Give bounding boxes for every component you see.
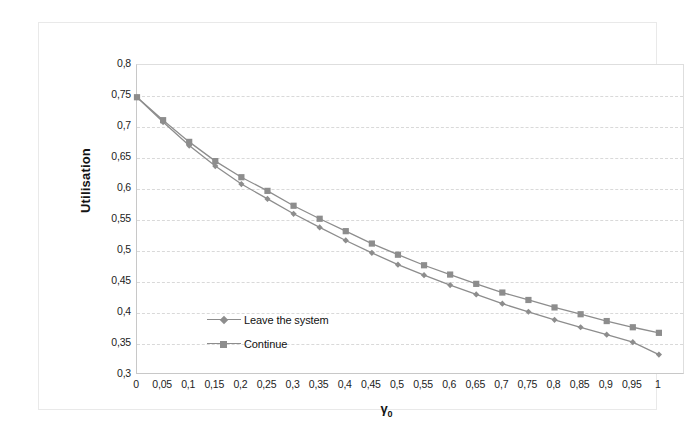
y-tick-label: 0,5 (117, 243, 131, 255)
data-point-marker (290, 203, 296, 209)
y-tick-label: 0,4 (117, 305, 131, 317)
data-point-marker (630, 324, 636, 330)
data-point-marker (421, 272, 427, 278)
chart-frame: Utilisation 0,80,750,70,650,60,550,50,45… (38, 22, 657, 410)
data-point-marker (421, 262, 427, 268)
y-tick-label: 0,35 (111, 336, 131, 348)
data-point-marker (525, 297, 531, 303)
data-point-marker (264, 196, 270, 202)
x-tick-label: 1 (655, 378, 661, 390)
x-tick-label: 0,75 (518, 378, 538, 390)
series-continue (134, 94, 662, 336)
data-point-marker (578, 311, 584, 317)
data-point-marker (551, 317, 557, 323)
legend-marker-diamond-icon (207, 314, 241, 326)
x-tick-label: 0,85 (570, 378, 590, 390)
y-tick-label: 0,3 (117, 367, 131, 379)
x-axis-title: γ0 (39, 401, 695, 419)
x-tick-label: 0,9 (599, 378, 613, 390)
data-point-marker (578, 324, 584, 330)
data-point-marker (473, 281, 479, 287)
series-line (137, 97, 659, 333)
x-tick-label: 0,45 (361, 378, 381, 390)
x-tick-label: 0,15 (204, 378, 224, 390)
x-axis-title-glyph: γ (380, 401, 387, 416)
legend-item-label: Leave the system (244, 314, 329, 326)
data-point-marker (499, 301, 505, 307)
x-tick-label: 0,1 (181, 378, 195, 390)
data-point-marker (525, 309, 531, 315)
chart-figure: Utilisation 0,80,750,70,650,60,550,50,45… (0, 0, 695, 439)
data-point-marker (317, 216, 323, 222)
data-point-marker (290, 211, 296, 217)
data-point-marker (264, 188, 270, 194)
data-point-marker (395, 252, 401, 258)
y-tick-label: 0,45 (111, 274, 131, 286)
data-point-marker (447, 271, 453, 277)
x-tick-label: 0,05 (152, 378, 172, 390)
data-point-marker (369, 250, 375, 256)
x-tick-label: 0,55 (413, 378, 433, 390)
x-axis-tick-labels: 00,050,10,150,20,250,30,350,40,450,50,55… (136, 378, 684, 398)
data-point-marker (343, 228, 349, 234)
data-point-marker (473, 291, 479, 297)
data-point-marker (238, 174, 244, 180)
data-point-marker (551, 304, 557, 310)
data-point-marker (604, 318, 610, 324)
x-tick-label: 0,4 (338, 378, 352, 390)
y-tick-label: 0,75 (111, 88, 131, 100)
legend-marker-square-icon (207, 338, 241, 350)
x-tick-label: 0,65 (465, 378, 485, 390)
legend-item-label: Continue (244, 338, 287, 350)
data-point-marker (343, 237, 349, 243)
x-axis-title-subscript: 0 (388, 409, 393, 419)
data-point-marker (447, 282, 453, 288)
y-tick-label: 0,65 (111, 150, 131, 162)
x-tick-label: 0 (133, 378, 139, 390)
x-tick-label: 0,2 (233, 378, 247, 390)
x-tick-label: 0,5 (390, 378, 404, 390)
y-tick-label: 0,8 (117, 57, 131, 69)
data-point-marker (656, 351, 662, 357)
y-tick-label: 0,6 (117, 181, 131, 193)
x-tick-label: 0,7 (494, 378, 508, 390)
y-tick-label: 0,55 (111, 212, 131, 224)
data-point-marker (630, 339, 636, 345)
data-point-marker (369, 240, 375, 246)
data-point-marker (317, 224, 323, 230)
data-point-marker (604, 332, 610, 338)
x-tick-label: 0,6 (442, 378, 456, 390)
legend-item: Leave the system (207, 308, 397, 332)
x-tick-label: 0,8 (547, 378, 561, 390)
legend-item: Continue (207, 332, 397, 356)
data-point-marker (395, 262, 401, 268)
x-tick-label: 0,35 (309, 378, 329, 390)
data-point-marker (656, 330, 662, 336)
x-tick-label: 0,3 (286, 378, 300, 390)
y-tick-label: 0,7 (117, 119, 131, 131)
x-tick-label: 0,95 (622, 378, 642, 390)
chart-legend: Leave the systemContinue (207, 308, 397, 356)
y-axis-tick-labels: 0,80,750,70,650,60,550,50,450,40,350,3 (91, 64, 131, 374)
data-point-marker (499, 289, 505, 295)
x-tick-label: 0,25 (257, 378, 277, 390)
